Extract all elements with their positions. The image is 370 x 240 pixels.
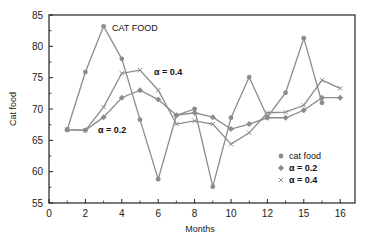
dot-marker-icon	[229, 115, 234, 120]
dot-marker-icon	[138, 117, 143, 122]
legend-label: cat food	[289, 151, 321, 161]
dot-marker-icon	[301, 36, 306, 41]
x-tick-label: 2	[83, 208, 89, 219]
annotation-cat-food: CAT FOOD	[112, 23, 158, 33]
x-tick-label: 0	[46, 208, 52, 219]
dot-marker-icon	[283, 90, 288, 95]
x-tick-label: 12	[262, 208, 274, 219]
x-marker-icon	[279, 178, 283, 182]
legend-item: α = 0.4	[279, 175, 318, 185]
dot-marker-icon	[119, 56, 124, 61]
dot-marker-icon	[83, 70, 88, 75]
dot-marker-icon	[279, 154, 284, 159]
diamond-marker-icon	[137, 87, 143, 93]
y-tick-label: 85	[32, 10, 44, 21]
x-tick-label: 10	[225, 208, 237, 219]
x-tick-label: 16	[335, 208, 347, 219]
legend-item: cat food	[279, 151, 321, 161]
y-axis: 55606570758085	[32, 10, 53, 209]
x-marker-icon	[101, 105, 105, 109]
y-tick-label: 80	[32, 41, 44, 52]
legend-label: α = 0.2	[289, 163, 317, 173]
dot-marker-icon	[210, 184, 215, 189]
dot-marker-icon	[247, 75, 252, 80]
legend-label: α = 0.4	[289, 175, 317, 185]
legend-item: α = 0.2	[278, 163, 317, 173]
y-tick-label: 65	[32, 135, 44, 146]
y-axis-label: Cat food	[8, 92, 18, 126]
diamond-marker-icon	[283, 115, 289, 121]
y-tick-label: 55	[32, 198, 44, 209]
diamond-marker-icon	[246, 121, 252, 127]
y-tick-label: 75	[32, 72, 44, 83]
dot-marker-icon	[320, 100, 325, 105]
series-line	[67, 26, 322, 186]
x-axis: 0246810121516	[46, 199, 346, 219]
x-tick-label: 8	[192, 208, 198, 219]
legend: cat foodα = 0.2α = 0.4	[278, 151, 321, 185]
diamond-marker-icon	[337, 95, 343, 101]
dot-marker-icon	[101, 24, 106, 29]
y-tick-label: 70	[32, 104, 44, 115]
x-tick-label: 4	[119, 208, 125, 219]
x-axis-label: Months	[185, 224, 215, 234]
x-marker-icon	[229, 142, 233, 146]
cat-food-chart: 55606570758085 0246810121516 CAT FOOD α …	[0, 0, 370, 240]
x-tick-label: 6	[155, 208, 161, 219]
diamond-marker-icon	[278, 165, 284, 171]
x-marker-icon	[247, 131, 251, 135]
diamond-marker-icon	[192, 110, 198, 116]
x-marker-icon	[156, 88, 160, 92]
y-tick-label: 60	[32, 166, 44, 177]
x-tick-label: 15	[298, 208, 310, 219]
annotation-alpha-0-4: α = 0.4	[154, 67, 182, 77]
annotation-alpha-0-2: α = 0.2	[98, 125, 126, 135]
dot-marker-icon	[156, 177, 161, 182]
